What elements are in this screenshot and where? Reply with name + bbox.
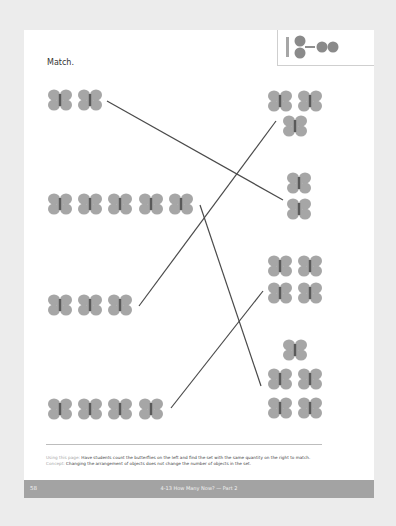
butterfly-icon (77, 397, 103, 421)
number-bond-icon (278, 30, 375, 66)
footer-title: 4-13 How Many Now? — Part 2 (24, 485, 374, 491)
concept-text: Changing the arrangement of objects does… (66, 461, 251, 466)
butterfly-icon (138, 192, 164, 216)
butterfly-icon (267, 396, 293, 420)
butterfly-icon (282, 114, 308, 138)
divider (46, 444, 322, 445)
butterfly-icon (297, 254, 323, 278)
butterfly-icon (297, 89, 323, 113)
butterfly-icon (77, 293, 103, 317)
butterfly-icon (267, 281, 293, 305)
butterfly-icon (297, 367, 323, 391)
lesson-badge (277, 30, 374, 66)
using-this-page-note: Using this page: Have students count the… (46, 455, 310, 460)
butterfly-icon (267, 89, 293, 113)
using-label: Using this page: (46, 455, 80, 460)
butterfly-icon (267, 254, 293, 278)
concept-label: Concept: (46, 461, 65, 466)
butterfly-icon (47, 293, 73, 317)
butterfly-icon (297, 396, 323, 420)
butterfly-icon (47, 192, 73, 216)
butterfly-icon (282, 338, 308, 362)
butterfly-icon (168, 192, 194, 216)
butterfly-icon (107, 397, 133, 421)
butterfly-icon (286, 197, 312, 221)
butterfly-icon (47, 397, 73, 421)
butterfly-icon (107, 192, 133, 216)
butterfly-icon (107, 293, 133, 317)
butterfly-icon (286, 171, 312, 195)
using-text: Have students count the butterflies on t… (81, 455, 310, 460)
butterfly-icon (77, 88, 103, 112)
butterfly-icon (77, 192, 103, 216)
instruction-text: Match. (47, 58, 74, 67)
butterfly-icon (267, 367, 293, 391)
footer-bar: 58 4-13 How Many Now? — Part 2 (24, 480, 374, 498)
butterfly-icon (297, 281, 323, 305)
butterfly-icon (138, 397, 164, 421)
concept-note: Concept: Changing the arrangement of obj… (46, 461, 251, 466)
butterfly-icon (47, 88, 73, 112)
